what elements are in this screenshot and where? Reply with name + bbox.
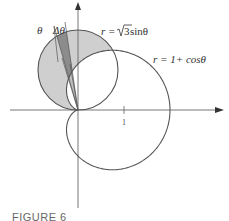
polar-area-diagram: 1 θ Δθ r = 3 sinθ r = 1+ cosθ: [0, 0, 229, 221]
cardioid-equation-label: r = 1+ cosθ: [153, 53, 207, 65]
x-axis-arrow-icon: [215, 107, 224, 113]
y-axis-arrow-icon: [75, 2, 81, 10]
svg-text:r =: r =: [101, 25, 115, 37]
theta-label: θ: [37, 24, 43, 36]
figure-caption: FIGURE 6: [12, 211, 67, 221]
delta-theta-label: Δθ: [52, 24, 65, 36]
axes: [10, 8, 218, 208]
svg-text:sinθ: sinθ: [130, 25, 148, 37]
x-tick-label: 1: [122, 118, 126, 127]
circle-equation-label: r = 3 sinθ: [101, 25, 148, 37]
